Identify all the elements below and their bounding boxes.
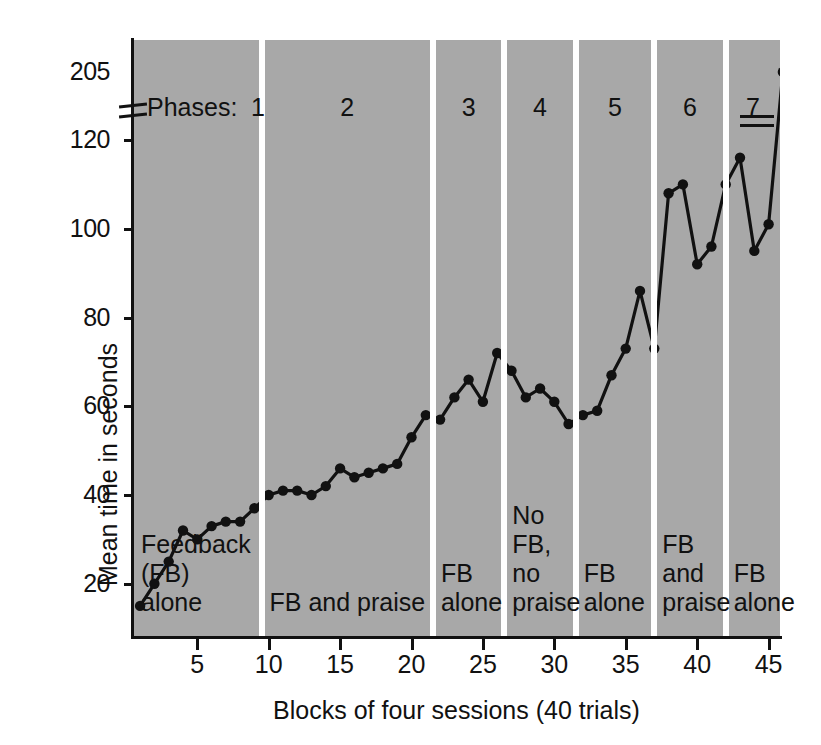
data-point (235, 516, 245, 526)
y-tick-label-205: 205 (0, 59, 110, 84)
data-point (292, 485, 302, 495)
data-point (321, 481, 331, 491)
series-break-mark-upper (740, 115, 774, 118)
data-point (349, 472, 359, 482)
y-axis-title: Mean time in seconds (94, 275, 123, 655)
phase-number-6: 6 (660, 94, 720, 121)
x-tick-mark-35 (625, 639, 628, 650)
phase-divider-2 (430, 40, 436, 637)
phase-caption-7: FB alone (734, 559, 778, 617)
data-point (749, 246, 759, 256)
phase-caption-4: No FB, no praise (512, 501, 573, 617)
data-point (621, 343, 631, 353)
phase-caption-6: FB and praise (662, 530, 723, 617)
data-point (663, 188, 673, 198)
data-point (606, 370, 616, 380)
data-point (335, 463, 345, 473)
y-tick-mark-80 (124, 317, 133, 320)
data-point (678, 179, 688, 189)
phase-number-1: 1 (251, 94, 291, 121)
data-point (692, 259, 702, 269)
phase-divider-5 (651, 40, 657, 637)
y-tick-mark-100 (124, 228, 133, 231)
phases-word-label: Phases: (147, 94, 237, 121)
data-point (535, 383, 545, 393)
phase-caption-3: FB alone (441, 559, 502, 617)
x-tick-label-5: 5 (175, 651, 219, 678)
data-point (378, 463, 388, 473)
x-axis-title: Blocks of four sessions (40 trials) (133, 696, 780, 725)
data-point (478, 397, 488, 407)
y-axis-title-holder: Mean time in seconds (46, 150, 76, 450)
data-point (521, 392, 531, 402)
phase-number-2: 2 (317, 94, 377, 121)
x-tick-label-35: 35 (604, 651, 648, 678)
y-tick-label-120: 120 (0, 127, 110, 152)
x-tick-label-40: 40 (675, 651, 719, 678)
data-point (463, 374, 473, 384)
y-tick-mark-40 (124, 494, 133, 497)
x-tick-mark-30 (553, 639, 556, 650)
phase-caption-5: FB alone (584, 559, 653, 617)
x-tick-mark-5 (196, 639, 199, 650)
data-point (506, 366, 516, 376)
x-tick-label-45: 45 (747, 651, 791, 678)
x-tick-mark-25 (482, 639, 485, 650)
data-point (364, 468, 374, 478)
x-tick-mark-10 (268, 639, 271, 650)
chart-figure: Phases: 1234567 Feedback (FB) aloneFB an… (0, 0, 821, 745)
data-point (392, 459, 402, 469)
series-break-mark-lower (740, 124, 774, 127)
x-tick-label-20: 20 (390, 651, 434, 678)
y-axis-line (131, 38, 134, 639)
data-point (735, 153, 745, 163)
data-point (706, 241, 716, 251)
y-tick-mark-120 (124, 139, 133, 142)
x-tick-label-30: 30 (532, 651, 576, 678)
x-tick-mark-20 (411, 639, 414, 650)
data-point (435, 414, 445, 424)
plot-area: Phases: 1234567 Feedback (FB) aloneFB an… (133, 40, 780, 637)
data-point (221, 516, 231, 526)
x-tick-label-10: 10 (247, 651, 291, 678)
x-tick-label-15: 15 (318, 651, 362, 678)
phase-number-3: 3 (439, 94, 499, 121)
x-tick-mark-15 (339, 639, 342, 650)
phase-caption-1: Feedback (FB) alone (141, 530, 260, 617)
data-point (264, 490, 274, 500)
phase-divider-3 (501, 40, 507, 637)
phase-number-4: 4 (510, 94, 570, 121)
phase-caption-2: FB and praise (270, 588, 431, 617)
phase-number-5: 5 (585, 94, 645, 121)
series-polyline (140, 72, 780, 606)
data-point (592, 406, 602, 416)
data-point (778, 67, 780, 77)
x-axis-line (131, 636, 782, 639)
data-point (406, 432, 416, 442)
data-point (449, 392, 459, 402)
data-point (278, 485, 288, 495)
data-point (763, 219, 773, 229)
x-tick-label-25: 25 (461, 651, 505, 678)
x-tick-mark-40 (696, 639, 699, 650)
data-point (578, 410, 588, 420)
y-tick-mark-20 (124, 583, 133, 586)
data-point (635, 286, 645, 296)
data-point (306, 490, 316, 500)
data-point (549, 397, 559, 407)
y-tick-mark-60 (124, 405, 133, 408)
x-tick-mark-45 (768, 639, 771, 650)
